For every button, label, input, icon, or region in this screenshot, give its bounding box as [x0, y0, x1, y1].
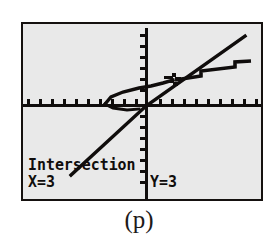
- intersection-status-label: Intersection: [28, 157, 136, 173]
- x-axis: [23, 104, 261, 107]
- y-axis: [145, 28, 148, 199]
- x-coordinate-readout: X=3: [28, 174, 55, 190]
- x-axis-ticks: [27, 99, 258, 104]
- series-y2-line: [175, 61, 251, 80]
- figure-container: Intersection X=3 Y=3 (p): [0, 0, 278, 248]
- figure-caption: (p): [0, 206, 278, 234]
- calculator-screen[interactable]: Intersection X=3 Y=3: [21, 22, 263, 201]
- y-coordinate-readout: Y=3: [150, 174, 177, 190]
